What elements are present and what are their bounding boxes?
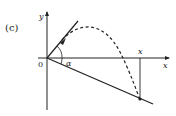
inclined-plane-line <box>47 58 153 104</box>
dashed-trajectory <box>62 27 140 100</box>
panel-label: (c) <box>5 22 19 33</box>
angle-arc-alpha <box>61 58 62 64</box>
angle-label: α <box>66 59 72 68</box>
range-label: x <box>138 47 143 56</box>
projectile-incline-diagram: (c) y x 0 α x <box>0 0 176 116</box>
y-axis-label: y <box>38 12 44 21</box>
angle-arc-upper <box>57 46 62 58</box>
x-axis-label: x <box>163 61 168 70</box>
origin-label: 0 <box>38 60 43 69</box>
landing-point <box>138 97 141 100</box>
